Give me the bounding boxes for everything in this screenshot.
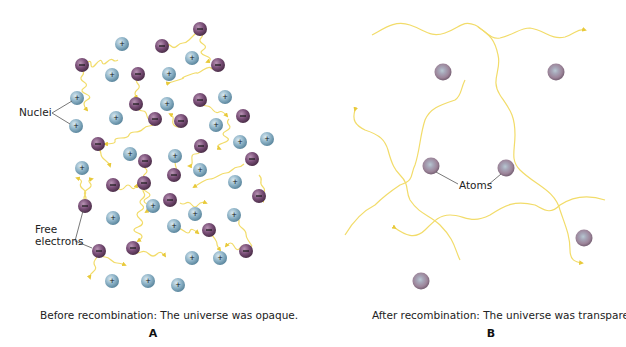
svg-text:+: + [264,134,269,144]
svg-text:+: + [192,209,197,219]
svg-text:+: + [222,92,227,102]
panel-a-letter: A [143,327,163,340]
panel-b-photons [345,23,605,263]
svg-text:+: + [113,113,118,123]
svg-text:+: + [175,280,180,290]
svg-text:+: + [237,137,242,147]
svg-text:+: + [197,165,202,175]
svg-text:+: + [189,53,194,63]
free-electrons-label-line1: Free [35,223,57,235]
svg-text:+: + [79,163,84,173]
panel-b-letter: B [481,327,501,340]
svg-text:+: + [231,210,236,220]
svg-text:+: + [164,99,169,109]
panel-b-atoms [413,64,593,290]
svg-text:+: + [109,276,114,286]
svg-text:+: + [119,39,124,49]
atoms-label: Atoms [459,179,492,191]
svg-text:+: + [189,253,194,263]
svg-text:+: + [171,221,176,231]
svg-text:+: + [232,177,237,187]
svg-text:+: + [73,121,78,131]
svg-text:+: + [172,151,177,161]
svg-text:+: + [150,201,155,211]
svg-text:+: + [166,69,171,79]
svg-text:+: + [109,70,114,80]
svg-text:+: + [110,213,115,223]
nuclei-label: Nuclei [19,106,52,118]
svg-text:+: + [74,93,79,103]
svg-text:+: + [213,120,218,130]
svg-text:+: + [127,149,132,159]
free-electrons-label-line2: electrons [35,235,83,247]
recombination-diagram: + + + + + + + + + + + + + + + + + + + + … [0,0,626,347]
panel-a-caption: Before recombination: The universe was o… [40,309,270,321]
panel-b-caption: After recombination: The universe was tr… [372,309,612,321]
svg-text:+: + [145,276,150,286]
svg-text:+: + [217,253,222,263]
